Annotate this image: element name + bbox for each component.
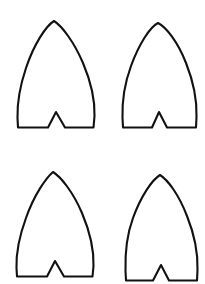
template-outline-canvas xyxy=(0,0,205,284)
drawing-sheet xyxy=(0,0,205,284)
